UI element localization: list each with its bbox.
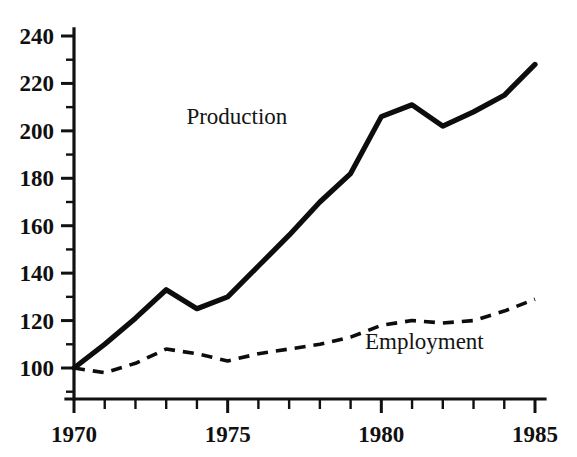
chart-canvas: 1001201401601802002202401970197519801985… <box>0 0 577 457</box>
y-axis-tick-label: 160 <box>20 214 55 239</box>
x-axis-tick-label: 1985 <box>512 422 558 447</box>
x-axis-tick-label: 1970 <box>51 422 97 447</box>
y-axis-tick-label: 240 <box>20 24 55 49</box>
data-series <box>74 64 535 372</box>
y-axis-tick-label: 100 <box>20 356 55 381</box>
y-axis-tick-label: 120 <box>20 309 55 334</box>
x-axis-tick-label: 1975 <box>205 422 251 447</box>
y-axis-tick-label: 200 <box>20 119 55 144</box>
series-label-production: Production <box>186 104 287 129</box>
y-axis-tick-label: 220 <box>20 71 55 96</box>
series-annotations: ProductionEmployment <box>186 104 484 354</box>
series-label-employment: Employment <box>365 329 484 354</box>
y-axis-tick-label: 140 <box>20 261 55 286</box>
x-axis-tick-label: 1980 <box>358 422 404 447</box>
line-chart: 1001201401601802002202401970197519801985… <box>0 0 577 457</box>
y-axis-tick-label: 180 <box>20 166 55 191</box>
